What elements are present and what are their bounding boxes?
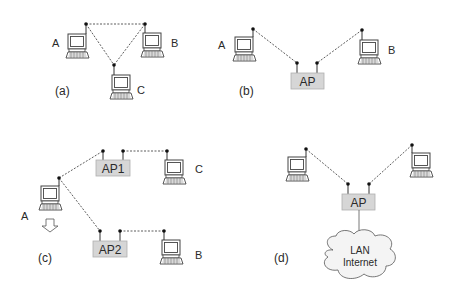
node-label-b: B xyxy=(171,37,178,49)
computer-a-icon xyxy=(39,176,62,210)
ap2-label: AP2 xyxy=(99,243,122,257)
link-lines-ap-lan xyxy=(306,145,412,184)
computer-b-icon xyxy=(160,229,183,264)
computer-right-icon xyxy=(410,143,433,177)
panel-caption-b: (b) xyxy=(239,84,254,98)
panel-c: AP1 C A AP2 xyxy=(21,149,203,265)
panel-caption-a: (a) xyxy=(55,84,70,98)
panel-a: A B C (a) xyxy=(52,22,178,99)
link-lines-infrastructure xyxy=(253,29,362,63)
move-down-arrow-icon xyxy=(42,219,58,232)
panel-b: A B AP (b) xyxy=(218,27,395,98)
ap1-label: AP1 xyxy=(102,162,125,176)
panel-d: AP LAN Internet (d) xyxy=(274,143,433,278)
panel-caption-c: (c) xyxy=(38,251,52,265)
computer-c-icon xyxy=(163,149,186,184)
access-point-1-icon: AP1 xyxy=(96,149,130,176)
wireless-topology-diagram: A B C (a) A xyxy=(0,0,457,287)
ap-label: AP xyxy=(350,196,366,210)
node-label-a: A xyxy=(21,210,29,222)
node-label-a: A xyxy=(52,37,60,49)
computer-a-icon xyxy=(233,27,256,61)
link-lines-adhoc xyxy=(86,24,145,65)
panel-caption-d: (d) xyxy=(274,251,289,265)
ap-label: AP xyxy=(299,75,315,89)
computer-b-icon xyxy=(358,28,381,64)
computer-left-icon xyxy=(286,147,309,181)
cloud-label-lan: LAN xyxy=(350,245,369,256)
node-label-b: B xyxy=(195,249,202,261)
node-label-a: A xyxy=(218,39,226,51)
computer-c-icon xyxy=(110,63,133,99)
cloud-label-internet: Internet xyxy=(343,257,377,268)
access-point-2-icon: AP2 xyxy=(93,229,127,257)
access-point-icon: AP xyxy=(291,61,324,89)
node-label-c: C xyxy=(195,163,203,175)
lan-internet-cloud-icon: LAN Internet xyxy=(324,230,395,279)
node-label-c: C xyxy=(137,84,145,96)
computer-b-icon xyxy=(141,22,164,57)
node-label-b: B xyxy=(388,44,395,56)
access-point-icon: AP xyxy=(342,182,375,210)
computer-a-icon xyxy=(66,22,89,58)
